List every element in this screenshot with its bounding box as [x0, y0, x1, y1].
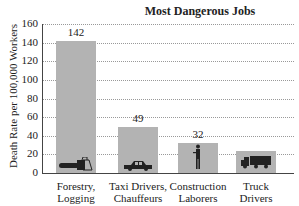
y-tick-label: 160 [12, 18, 38, 29]
y-tick-label: 60 [12, 111, 38, 122]
truck-icon [241, 155, 271, 173]
y-tick-label: 120 [12, 55, 38, 66]
data-label: 49 [118, 112, 158, 124]
data-label: 142 [56, 26, 96, 38]
data-label: 32 [178, 128, 218, 140]
bar [56, 41, 96, 173]
y-tick-label: 100 [12, 74, 38, 85]
y-tick-label: 40 [12, 130, 38, 141]
x-category-label: Forestry,Logging [41, 180, 111, 204]
car-icon [123, 157, 153, 175]
chart-title: Most Dangerous Jobs [120, 4, 280, 19]
chainsaw-icon [59, 157, 93, 175]
y-tick-label: 140 [12, 37, 38, 48]
plot-area: 020406080100120140160142Forestry,Logging… [42, 24, 294, 173]
y-tick-label: 20 [12, 148, 38, 159]
x-category-label: TruckDrivers [221, 180, 291, 204]
y-tick-label: 80 [12, 93, 38, 104]
y-tick-label: 0 [12, 167, 38, 178]
worker-icon [193, 144, 203, 174]
